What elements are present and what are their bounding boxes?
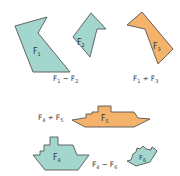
figure-f3: F3 [127,12,173,64]
figure-f5: F5 [72,106,150,127]
figure-f1: F1 [15,17,70,72]
figure-f6: F6 [127,146,157,166]
figure-f1-shape [15,17,70,72]
figure-f3-shape [127,12,173,64]
figure-f4: F4 [33,137,89,170]
figure-f4-shape [33,137,89,170]
relation-f4-f6: F4~F6 [92,160,117,170]
similarity-diagram: F1 F2 F3 F1~F2 F1≁F3 F5 F4≁F5 F4 F4~F6 F… [0,0,180,176]
figure-f2: F2 [73,13,106,57]
figure-f5-shape [72,106,150,127]
relation-f4-f5: F4≁F5 [38,113,63,123]
relation-f1-f2: F1~F2 [53,74,78,84]
figure-f2-shape [73,13,106,57]
relation-f1-f3: F1≁F3 [133,74,158,84]
